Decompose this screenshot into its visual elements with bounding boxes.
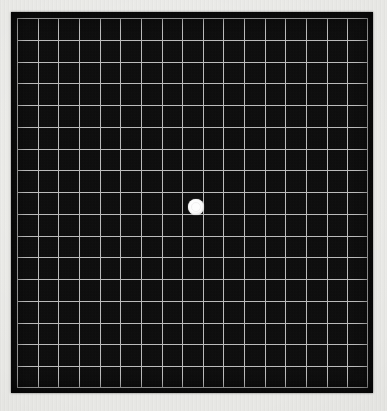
- grid-line-vertical: [285, 18, 286, 388]
- grid-line-horizontal: [17, 83, 368, 84]
- central-fixation-dot: [188, 199, 204, 215]
- grid-line-horizontal: [17, 257, 368, 258]
- grid-line-vertical: [347, 18, 348, 388]
- grid-line-horizontal: [17, 344, 368, 345]
- grid-line-vertical: [162, 18, 163, 388]
- grid-line-horizontal: [17, 170, 368, 171]
- grid-line-horizontal: [17, 149, 368, 150]
- grid-line-vertical: [182, 18, 183, 388]
- grid-line-vertical: [367, 18, 368, 388]
- amsler-grid-panel: [11, 12, 373, 393]
- grid-line-horizontal: [17, 105, 368, 106]
- grid-line-horizontal: [17, 323, 368, 324]
- grid-line-vertical: [223, 18, 224, 388]
- grid-line-vertical: [327, 18, 328, 388]
- grid-line-vertical: [306, 18, 307, 388]
- grid-line-vertical: [100, 18, 101, 388]
- grid-line-horizontal: [17, 127, 368, 128]
- grid-line-horizontal: [17, 236, 368, 237]
- grid-line-vertical: [79, 18, 80, 388]
- grid-line-vertical: [58, 18, 59, 388]
- grid-line-horizontal: [17, 18, 368, 19]
- grid-line-horizontal: [17, 301, 368, 302]
- grid-line-horizontal: [17, 40, 368, 41]
- grid-line-vertical: [265, 18, 266, 388]
- grid-line-horizontal: [17, 192, 368, 193]
- grid-line-horizontal: [17, 279, 368, 280]
- grid-line-vertical: [141, 18, 142, 388]
- amsler-grid-screenshot: [0, 0, 387, 411]
- grid-line-vertical: [17, 18, 18, 388]
- grid-line-vertical: [38, 18, 39, 388]
- grid-line-horizontal: [17, 387, 368, 388]
- grid-line-horizontal: [17, 366, 368, 367]
- grid-line-horizontal: [17, 62, 368, 63]
- grid-line-vertical: [244, 18, 245, 388]
- grid-line-vertical: [120, 18, 121, 388]
